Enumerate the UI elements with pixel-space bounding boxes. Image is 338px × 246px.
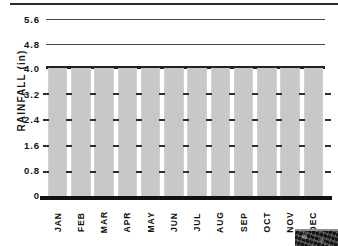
plot-area bbox=[46, 68, 325, 196]
month-label-sep: SEP bbox=[239, 212, 249, 232]
month-slot-aug: AUG bbox=[209, 201, 232, 243]
scan-artifact bbox=[295, 231, 338, 246]
bar-may bbox=[141, 68, 161, 196]
bar-dec bbox=[304, 68, 324, 196]
month-label-nov: NOV bbox=[285, 211, 295, 232]
y-tick-label-4-8: 4.8 bbox=[6, 39, 40, 50]
bar-oct bbox=[257, 68, 277, 196]
bar-slot-jan bbox=[46, 68, 69, 196]
month-slot-jun: JUN bbox=[162, 201, 185, 243]
top-border-rule bbox=[10, 3, 338, 5]
bar-jun bbox=[164, 68, 184, 196]
bar-sep bbox=[234, 68, 254, 196]
bar-slot-oct bbox=[255, 68, 278, 196]
month-slot-sep: SEP bbox=[232, 201, 255, 243]
bar-aug bbox=[211, 68, 231, 196]
bar-slot-jun bbox=[162, 68, 185, 196]
x-axis-baseline bbox=[40, 196, 332, 200]
month-label-may: MAY bbox=[146, 211, 156, 232]
y-tick-label-1-6: 1.6 bbox=[6, 140, 40, 151]
month-label-jul: JUL bbox=[192, 212, 202, 231]
month-slot-oct: OCT bbox=[255, 201, 278, 243]
month-slot-jul: JUL bbox=[186, 201, 209, 243]
rainfall-bar-chart: RAINFALL (in) 5.6 4.8 4.0 3.2 2.4 1.6 0.… bbox=[0, 0, 338, 246]
tick-mark-right bbox=[325, 93, 331, 95]
tick-mark-right bbox=[325, 145, 331, 147]
month-slot-may: MAY bbox=[139, 201, 162, 243]
bar-slot-mar bbox=[93, 68, 116, 196]
bar-slot-feb bbox=[69, 68, 92, 196]
tick-mark-right bbox=[325, 119, 331, 121]
y-tick-label-3-2: 3.2 bbox=[6, 89, 40, 100]
month-label-apr: APR bbox=[122, 212, 132, 233]
y-tick-label-4-0: 4.0 bbox=[6, 63, 40, 74]
bar-feb bbox=[71, 68, 91, 196]
month-label-feb: FEB bbox=[76, 212, 86, 232]
bar-slot-may bbox=[139, 68, 162, 196]
month-slot-apr: APR bbox=[116, 201, 139, 243]
month-label-jan: JAN bbox=[53, 212, 63, 232]
y-tick-label-5-6: 5.6 bbox=[6, 14, 40, 25]
month-label-oct: OCT bbox=[262, 212, 272, 233]
bar-slot-sep bbox=[232, 68, 255, 196]
month-label-aug: AUG bbox=[215, 211, 225, 233]
y-tick-label-2-4: 2.4 bbox=[6, 114, 40, 125]
bar-slot-nov bbox=[279, 68, 302, 196]
bar-slot-aug bbox=[209, 68, 232, 196]
month-slot-mar: MAR bbox=[93, 201, 116, 243]
month-slot-feb: FEB bbox=[69, 201, 92, 243]
month-label-mar: MAR bbox=[99, 211, 109, 233]
gridline-4-8 bbox=[46, 44, 325, 45]
gridline-5-6 bbox=[46, 19, 325, 20]
bar-slot-jul bbox=[186, 68, 209, 196]
bar-slot-dec bbox=[302, 68, 325, 196]
bar-slot-apr bbox=[116, 68, 139, 196]
month-slot-jan: JAN bbox=[46, 201, 69, 243]
bar-apr bbox=[118, 68, 138, 196]
y-tick-label-0: 0 bbox=[6, 190, 40, 201]
bar-jul bbox=[187, 68, 207, 196]
bar-mar bbox=[94, 68, 114, 196]
bar-series bbox=[46, 68, 325, 196]
month-label-jun: JUN bbox=[169, 212, 179, 232]
y-tick-label-0-8: 0.8 bbox=[6, 165, 40, 176]
tick-mark-right bbox=[325, 171, 331, 173]
bar-jan bbox=[48, 68, 68, 196]
bar-nov bbox=[280, 68, 300, 196]
x-axis-category-labels: JAN FEB MAR APR MAY JUN JUL AUG SEP OCT … bbox=[46, 201, 325, 243]
